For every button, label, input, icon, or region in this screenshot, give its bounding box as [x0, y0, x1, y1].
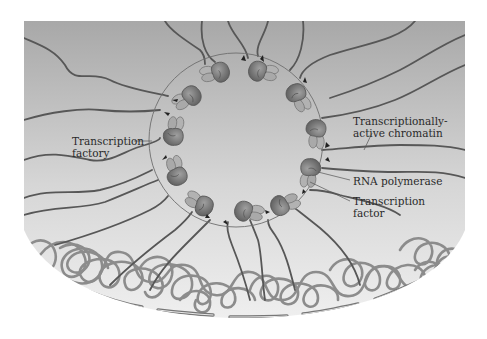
label-rna-polymerase: RNA polymerase	[353, 175, 442, 187]
label-active-chromatin: Transcriptionally- active chromatin	[353, 115, 448, 139]
transcription-factory-diagram	[0, 0, 487, 339]
rna-polymerase-pair	[306, 119, 326, 149]
label-transcription-factory: Transcription factory	[72, 135, 144, 159]
label-transcription-factor: Transcription factor	[353, 195, 425, 219]
